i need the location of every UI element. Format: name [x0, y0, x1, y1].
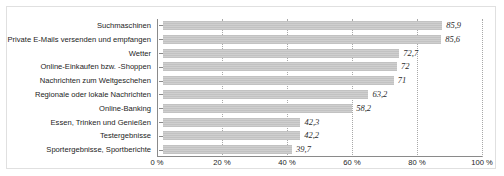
- chart-container: 85,985,672,7727163,258,242,342,239,7 Suc…: [6, 6, 496, 169]
- x-tick-label: 100 %: [471, 158, 493, 167]
- category-label: Suchmaschinen: [97, 19, 151, 33]
- category-label: Sportergebnisse, Sportberichte: [46, 143, 151, 157]
- category-label: Nachrichten zum Weltgeschehen: [40, 74, 151, 88]
- x-tick-label: 60 %: [343, 158, 360, 167]
- x-tick-label: 80 %: [408, 158, 425, 167]
- category-label: Regionale oder lokale Nachrichten: [35, 88, 151, 102]
- category-label: Private E-Mails versenden und empfangen: [7, 33, 151, 47]
- category-label: Wetter: [129, 47, 151, 61]
- x-tick-label: 0 %: [150, 158, 163, 167]
- x-tick-label: 20 %: [213, 158, 230, 167]
- category-label: Online-Banking: [99, 102, 151, 116]
- category-label: Testergebnisse: [100, 129, 151, 143]
- category-label: Online-Einkaufen bzw. -Shoppen: [40, 60, 151, 74]
- x-tick-label: 40 %: [278, 158, 295, 167]
- category-axis-labels: SuchmaschinenPrivate E-Mails versenden u…: [7, 19, 504, 157]
- category-label: Essen, Trinken und Genießen: [51, 116, 151, 130]
